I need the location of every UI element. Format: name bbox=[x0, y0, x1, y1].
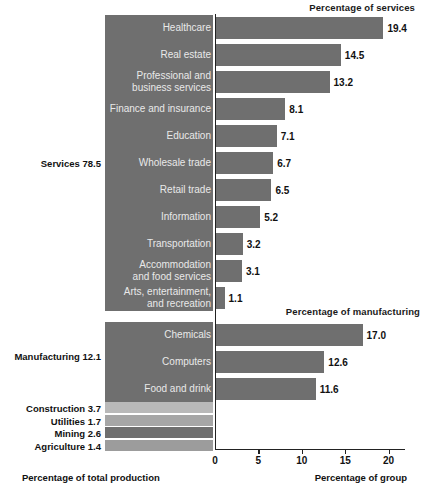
sector-label: Utilities 1.7 bbox=[51, 416, 101, 427]
category-label: Real estate bbox=[160, 49, 211, 61]
bar-value-label: 7.1 bbox=[281, 131, 295, 142]
category-label: Transportation bbox=[147, 238, 211, 250]
bar bbox=[215, 324, 363, 346]
bar-value-label: 11.6 bbox=[320, 384, 339, 395]
bar-value-label: 19.4 bbox=[387, 23, 406, 34]
category-label: Wholesale trade bbox=[139, 157, 211, 169]
axis-tick-label: 20 bbox=[379, 455, 399, 466]
bar bbox=[215, 179, 271, 201]
services-heading: Percentage of services bbox=[309, 2, 415, 13]
production-breakdown-chart: Percentage of servicesServices 78.5Healt… bbox=[0, 0, 423, 496]
sector-bar bbox=[105, 427, 213, 438]
axis-tick-label: 0 bbox=[205, 455, 225, 466]
bar bbox=[215, 351, 324, 373]
bar bbox=[215, 98, 285, 120]
category-label: Arts, entertainment, and recreation bbox=[124, 286, 211, 309]
bar-value-label: 14.5 bbox=[345, 50, 364, 61]
category-label: Finance and insurance bbox=[110, 103, 211, 115]
bar bbox=[215, 44, 341, 66]
bar bbox=[215, 378, 316, 400]
manufacturing-heading: Percentage of manufacturing bbox=[286, 306, 420, 317]
sector-label: Mining 2.6 bbox=[55, 428, 101, 439]
category-label: Chemicals bbox=[164, 329, 211, 341]
sector-label: Construction 3.7 bbox=[26, 403, 101, 414]
axis-horizontal-line bbox=[215, 449, 405, 450]
x-axis-caption-left: Percentage of total production bbox=[22, 472, 160, 483]
axis-vertical-line bbox=[215, 14, 216, 449]
category-label: Professional and business services bbox=[132, 70, 211, 93]
category-label: Information bbox=[161, 211, 211, 223]
axis-tick bbox=[345, 450, 346, 454]
x-axis-caption-right: Percentage of group bbox=[315, 472, 407, 483]
axis-tick bbox=[389, 450, 390, 454]
category-label: Accommodation and food services bbox=[133, 259, 211, 282]
bar-value-label: 6.5 bbox=[275, 185, 289, 196]
axis-tick-label: 15 bbox=[335, 455, 355, 466]
category-label: Food and drink bbox=[144, 383, 211, 395]
bar-value-label: 6.7 bbox=[277, 158, 291, 169]
bar bbox=[215, 152, 273, 174]
bar bbox=[215, 206, 260, 228]
category-label: Healthcare bbox=[163, 22, 211, 34]
bar bbox=[215, 287, 225, 309]
sector-bar bbox=[105, 415, 213, 426]
bar bbox=[215, 125, 277, 147]
category-label: Retail trade bbox=[160, 184, 211, 196]
bar-value-label: 3.1 bbox=[246, 266, 260, 277]
axis-tick-label: 5 bbox=[248, 455, 268, 466]
bar-value-label: 17.0 bbox=[367, 330, 386, 341]
axis-tick-label: 10 bbox=[292, 455, 312, 466]
bar-value-label: 1.1 bbox=[229, 293, 243, 304]
axis-tick bbox=[258, 450, 259, 454]
bar-value-label: 5.2 bbox=[264, 212, 278, 223]
bar-value-label: 3.2 bbox=[247, 239, 261, 250]
bar bbox=[215, 71, 330, 93]
sector-label: Agriculture 1.4 bbox=[34, 441, 101, 452]
axis-tick bbox=[302, 450, 303, 454]
sector-bar bbox=[105, 402, 213, 413]
bar bbox=[215, 260, 242, 282]
bar-value-label: 8.1 bbox=[289, 104, 303, 115]
category-label: Computers bbox=[162, 356, 211, 368]
services-group-label: Services 78.5 bbox=[41, 158, 101, 169]
bar-value-label: 13.2 bbox=[334, 77, 353, 88]
bar bbox=[215, 17, 383, 39]
bar-value-label: 12.6 bbox=[328, 357, 347, 368]
sector-bar bbox=[105, 440, 213, 451]
bar bbox=[215, 233, 243, 255]
category-label: Education bbox=[167, 130, 211, 142]
manufacturing-group-label: Manufacturing 12.1 bbox=[14, 351, 101, 362]
